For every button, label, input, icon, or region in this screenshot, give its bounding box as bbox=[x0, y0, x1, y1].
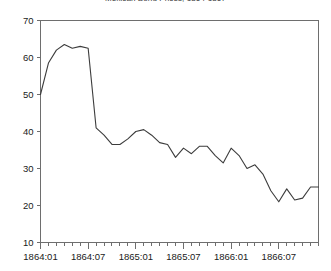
x-axis-ticks bbox=[41, 243, 319, 249]
x-tick-label: 1866:01 bbox=[214, 251, 248, 262]
x-axis-tick-labels: 1864:011864:071865:011865:071866:011866:… bbox=[23, 251, 296, 262]
y-tick-label: 10 bbox=[23, 237, 34, 248]
data-series-line bbox=[41, 45, 319, 202]
y-tick-label: 70 bbox=[23, 15, 34, 26]
x-tick-label: 1865:01 bbox=[119, 251, 153, 262]
y-axis-tick-labels: 10203040506070 bbox=[23, 15, 34, 248]
x-tick-label: 1866:07 bbox=[262, 251, 296, 262]
y-tick-label: 30 bbox=[23, 163, 34, 174]
x-tick-label: 1864:07 bbox=[71, 251, 105, 262]
x-tick-label: 1865:07 bbox=[166, 251, 200, 262]
y-tick-label: 20 bbox=[23, 200, 34, 211]
line-chart-plot: 10203040506070 1864:011864:071865:011865… bbox=[0, 0, 331, 271]
chart-figure: Mexican Bond Prices, 1864-1867 102030405… bbox=[0, 0, 331, 271]
y-axis-ticks bbox=[37, 21, 41, 243]
y-tick-label: 50 bbox=[23, 89, 34, 100]
axis-frame bbox=[41, 21, 319, 243]
x-tick-label: 1864:01 bbox=[23, 251, 57, 262]
y-tick-label: 40 bbox=[23, 126, 34, 137]
y-tick-label: 60 bbox=[23, 52, 34, 63]
